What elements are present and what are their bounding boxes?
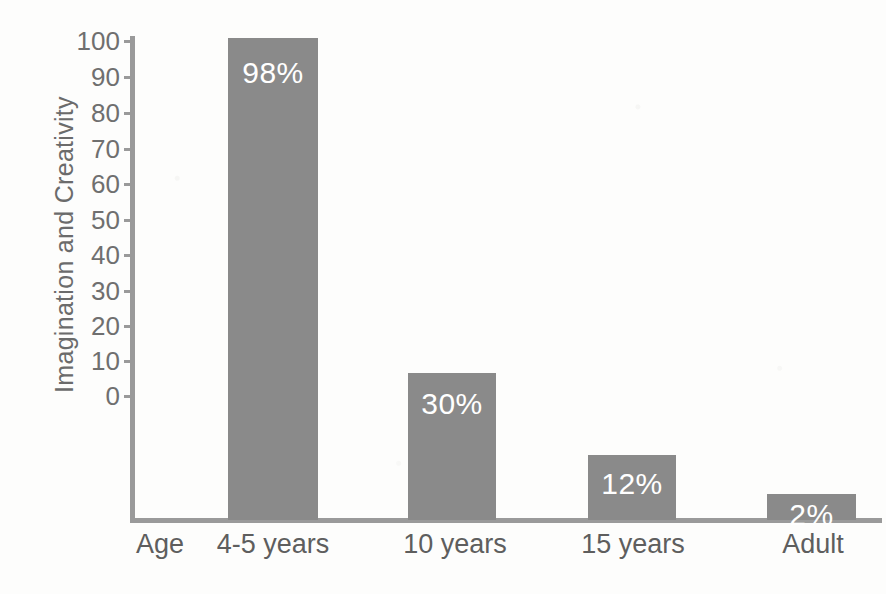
y-axis-tick-label: 10 bbox=[0, 348, 120, 374]
x-axis-tick-label: 15 years bbox=[563, 529, 703, 559]
y-axis-tick-label: 80 bbox=[0, 100, 120, 126]
x-axis-tick-label: Age bbox=[110, 529, 210, 559]
y-axis-tick-label: 90 bbox=[0, 64, 120, 90]
bar-value-label: 30% bbox=[408, 389, 496, 419]
chart-page: Imagination and Creativity 1009080706050… bbox=[0, 0, 886, 594]
y-axis-tick-mark bbox=[124, 360, 131, 363]
y-axis-tick-label: 0 bbox=[0, 383, 120, 409]
y-axis-tick-label: 60 bbox=[0, 171, 120, 197]
bar-value-label: 12% bbox=[588, 469, 676, 499]
y-axis-tick-label: 100 bbox=[0, 28, 120, 54]
y-axis-tick-mark bbox=[124, 325, 131, 328]
y-axis-tick-label: 50 bbox=[0, 207, 120, 233]
bar-value-label: 98% bbox=[228, 58, 318, 88]
y-axis-tick-label: 40 bbox=[0, 242, 120, 268]
x-axis-tick-label: Adult bbox=[753, 529, 873, 559]
y-axis-tick-mark bbox=[124, 290, 131, 293]
y-axis-line bbox=[130, 36, 135, 523]
y-axis-tick-label: 70 bbox=[0, 136, 120, 162]
y-axis-tick-label: 20 bbox=[0, 313, 120, 339]
y-axis-tick-mark bbox=[124, 183, 131, 186]
y-axis-tick-mark bbox=[124, 40, 131, 43]
y-axis-tick-mark bbox=[124, 76, 131, 79]
y-axis-tick-mark bbox=[124, 254, 131, 257]
bar: 30% bbox=[408, 373, 496, 520]
y-axis-tick-mark bbox=[124, 219, 131, 222]
y-axis-tick-mark bbox=[124, 395, 131, 398]
y-axis-tick-mark bbox=[124, 112, 131, 115]
x-axis-tick-label: 4-5 years bbox=[198, 529, 348, 559]
y-axis-tick-mark bbox=[124, 148, 131, 151]
bar: 2% bbox=[767, 494, 856, 520]
bar-value-label: 2% bbox=[767, 500, 856, 530]
bar: 12% bbox=[588, 455, 676, 520]
bar: 98% bbox=[228, 38, 318, 520]
y-axis-tick-label: 30 bbox=[0, 278, 120, 304]
x-axis-tick-label: 10 years bbox=[385, 529, 525, 559]
